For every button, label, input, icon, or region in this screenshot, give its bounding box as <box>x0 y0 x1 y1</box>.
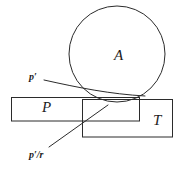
circle-a-label: A <box>114 48 123 63</box>
annotation-label-p-prime-over-r: p′/r <box>29 150 43 160</box>
rectangle-t-label: T <box>153 113 161 128</box>
annotation-label-p-prime: p′ <box>29 72 37 82</box>
leader-line-p-prime <box>44 80 145 96</box>
leader-line-p-prime-over-r <box>49 105 108 147</box>
rectangle-p-shape <box>12 98 140 122</box>
geometry-figure: A P T p′ p′/r <box>0 0 180 174</box>
figure-canvas <box>0 0 180 174</box>
rectangle-p-label: P <box>42 100 51 115</box>
